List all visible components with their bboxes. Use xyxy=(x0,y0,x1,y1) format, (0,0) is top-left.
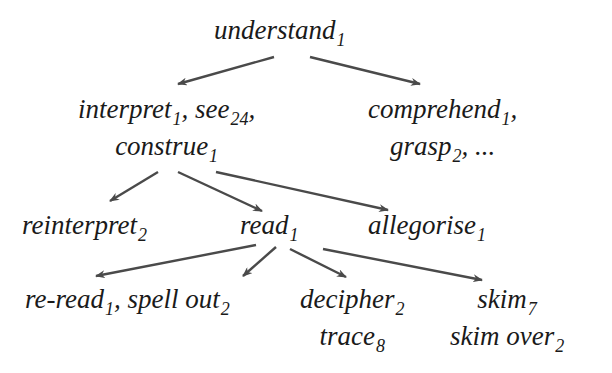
node-read: read1 xyxy=(240,210,299,243)
node-decipher: decipher2 trace8 xyxy=(300,284,404,354)
edge-construe-read xyxy=(178,172,262,211)
edge-read-reread xyxy=(96,245,256,276)
node-skim: skim7 skim over2 xyxy=(450,284,564,354)
node-reread-spellout: re-read1, spell out2 xyxy=(25,284,230,317)
edge-construe-allegorise xyxy=(216,172,388,210)
edge-understand-comprehend xyxy=(310,57,420,84)
node-allegorise: allegorise1 xyxy=(368,210,486,243)
node-understand: understand1 xyxy=(214,15,346,48)
edge-read-skim xyxy=(323,249,482,280)
edge-read-decipher xyxy=(290,249,346,277)
edge-understand-interpret xyxy=(178,57,274,84)
node-reinterpret: reinterpret2 xyxy=(22,210,147,243)
edge-construe-reinterpret xyxy=(110,172,158,201)
edge-read-spellout xyxy=(243,247,276,276)
node-interpret: interpret1, see24, construe1 xyxy=(78,94,255,164)
node-comprehend: comprehend1, grasp2, ... xyxy=(368,94,517,164)
